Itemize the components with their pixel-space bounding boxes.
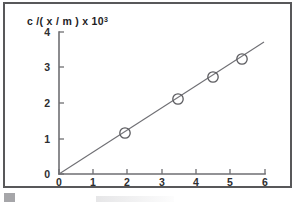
y-tick-label-2: 2 bbox=[44, 97, 50, 109]
page-artifact-smudge bbox=[96, 196, 174, 202]
y-tick-label-1: 1 bbox=[44, 133, 50, 145]
y-axis-title-main: c /( x / m ) x 10 bbox=[27, 15, 104, 27]
scatter-plot: 0 1 2 3 4 5 6 0 1 2 3 4 c /( x / m ) x 1… bbox=[5, 4, 294, 190]
x-tick-labels: 0 1 2 3 4 5 6 bbox=[56, 176, 268, 188]
y-tick-label-0: 0 bbox=[44, 168, 50, 180]
figure-frame: 0 1 2 3 4 5 6 0 1 2 3 4 c /( x / m ) x 1… bbox=[3, 2, 292, 188]
x-tick-label-5: 5 bbox=[227, 176, 233, 188]
x-tick-label-1: 1 bbox=[90, 176, 96, 188]
data-markers bbox=[120, 54, 247, 138]
x-tick-label-2: 2 bbox=[124, 176, 130, 188]
axes-group bbox=[59, 32, 265, 174]
y-tick-label-3: 3 bbox=[44, 61, 50, 73]
y-tick-label-4: 4 bbox=[44, 26, 50, 38]
data-point-marker bbox=[208, 72, 218, 82]
x-tick-label-6: 6 bbox=[262, 176, 268, 188]
data-point-marker bbox=[173, 94, 183, 104]
linear-fit-line bbox=[59, 42, 264, 174]
y-axis-title-exponent: 3 bbox=[104, 16, 108, 23]
x-tick-label-0: 0 bbox=[56, 176, 62, 188]
data-point-marker bbox=[120, 128, 130, 138]
x-tick-label-4: 4 bbox=[193, 176, 199, 188]
page-artifact-mark bbox=[4, 193, 15, 202]
data-point-marker bbox=[237, 54, 247, 64]
y-axis-title: c /( x / m ) x 103 bbox=[27, 15, 108, 27]
y-tick-labels: 0 1 2 3 4 bbox=[44, 26, 50, 180]
x-tick-label-3: 3 bbox=[159, 176, 165, 188]
